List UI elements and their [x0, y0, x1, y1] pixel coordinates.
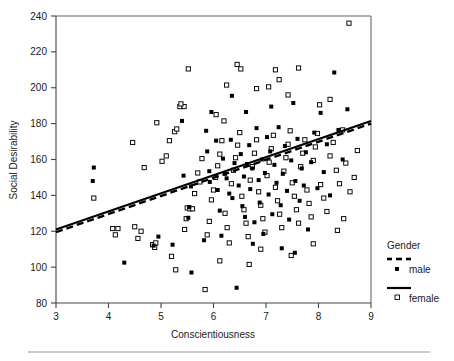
data-point-male — [230, 196, 234, 200]
data-point-female — [225, 226, 229, 230]
legend-label-male: male — [409, 264, 431, 275]
data-point-female — [131, 140, 135, 144]
data-point-female — [240, 194, 244, 198]
data-point-male — [332, 71, 336, 75]
data-point-male — [171, 243, 175, 247]
data-point-male — [328, 193, 332, 197]
chart-canvas: 80100120140160180200220240 3456789 Socia… — [0, 0, 454, 361]
data-point-female — [203, 287, 207, 291]
data-point-male — [218, 209, 222, 213]
data-point-female — [307, 201, 311, 205]
data-point-female — [352, 175, 356, 179]
data-point-male — [319, 111, 323, 115]
data-point-male — [189, 271, 193, 275]
data-point-female — [229, 182, 233, 186]
data-point-female — [211, 188, 215, 192]
data-point-male — [187, 205, 191, 209]
data-point-female — [133, 225, 137, 229]
legend-title: Gender — [387, 240, 421, 251]
data-point-female — [164, 154, 168, 158]
data-point-female — [303, 138, 307, 142]
data-point-male — [204, 129, 208, 133]
data-point-female — [136, 236, 140, 240]
data-point-female — [267, 160, 271, 164]
data-point-male — [240, 204, 244, 208]
data-point-female — [239, 67, 243, 71]
data-point-male — [298, 199, 302, 203]
data-point-female — [292, 194, 296, 198]
data-point-male — [287, 218, 291, 222]
data-point-male — [255, 126, 259, 130]
data-point-male — [205, 149, 209, 153]
data-point-male — [300, 166, 304, 170]
data-point-male — [296, 137, 300, 141]
x-tick-label: 8 — [316, 311, 322, 322]
y-axis-label: Social Desirability — [8, 121, 19, 200]
y-tick-label: 80 — [36, 298, 48, 309]
data-point-female — [305, 188, 309, 192]
data-point-female — [286, 93, 290, 97]
data-point-male — [309, 160, 313, 164]
data-point-female — [244, 221, 248, 225]
data-point-female — [252, 151, 256, 155]
data-point-female — [254, 138, 258, 142]
data-point-female — [284, 156, 288, 160]
data-point-female — [328, 97, 332, 101]
scatter-plot-figure: 80100120140160180200220240 3456789 Socia… — [0, 0, 454, 361]
data-point-male — [235, 286, 239, 290]
legend-label-female: female — [409, 293, 439, 304]
data-point-male — [258, 201, 262, 205]
data-point-male — [214, 139, 218, 143]
data-point-male — [281, 172, 285, 176]
data-point-female — [222, 119, 226, 123]
data-point-male — [216, 188, 220, 192]
data-point-female — [335, 228, 339, 232]
data-point-female — [273, 68, 277, 72]
data-point-female — [247, 262, 251, 266]
data-point-female — [227, 241, 231, 245]
data-point-female — [309, 215, 313, 219]
data-point-male — [268, 149, 272, 153]
data-point-female — [257, 190, 261, 194]
data-point-female — [246, 235, 250, 239]
data-point-female — [223, 211, 227, 215]
x-tick-label: 7 — [263, 311, 269, 322]
y-tick-label: 140 — [30, 190, 47, 201]
data-point-female — [271, 133, 275, 137]
data-point-female — [261, 217, 265, 221]
data-point-male — [272, 163, 276, 167]
data-point-female — [160, 159, 164, 163]
y-tick-label: 240 — [30, 11, 47, 22]
data-point-male — [237, 184, 241, 188]
y-tick-label: 100 — [30, 262, 47, 273]
data-point-male — [312, 131, 316, 135]
data-point-male — [252, 220, 256, 224]
data-point-female — [167, 139, 171, 143]
data-point-female — [289, 253, 293, 257]
data-point-female — [275, 199, 279, 203]
data-point-female — [277, 78, 281, 82]
data-point-male — [283, 144, 287, 148]
y-tick-label: 200 — [30, 82, 47, 93]
data-point-female — [92, 196, 96, 200]
data-point-female — [186, 67, 190, 71]
data-point-female — [259, 247, 263, 251]
data-point-female — [207, 219, 211, 223]
data-point-female — [344, 161, 348, 165]
data-point-female — [331, 140, 335, 144]
data-point-female — [296, 221, 300, 225]
data-point-male — [92, 166, 96, 170]
data-point-male — [230, 94, 234, 98]
data-point-male — [265, 135, 269, 139]
data-point-female — [113, 233, 117, 237]
data-point-male — [251, 242, 255, 246]
y-tick-label: 120 — [30, 226, 47, 237]
data-point-male — [293, 179, 297, 183]
data-point-male — [341, 158, 345, 162]
data-point-male — [202, 238, 206, 242]
data-point-female — [322, 196, 326, 200]
data-point-female — [193, 191, 197, 195]
data-point-male — [229, 138, 233, 142]
x-tick-label: 9 — [368, 311, 374, 322]
data-point-male — [221, 157, 225, 161]
